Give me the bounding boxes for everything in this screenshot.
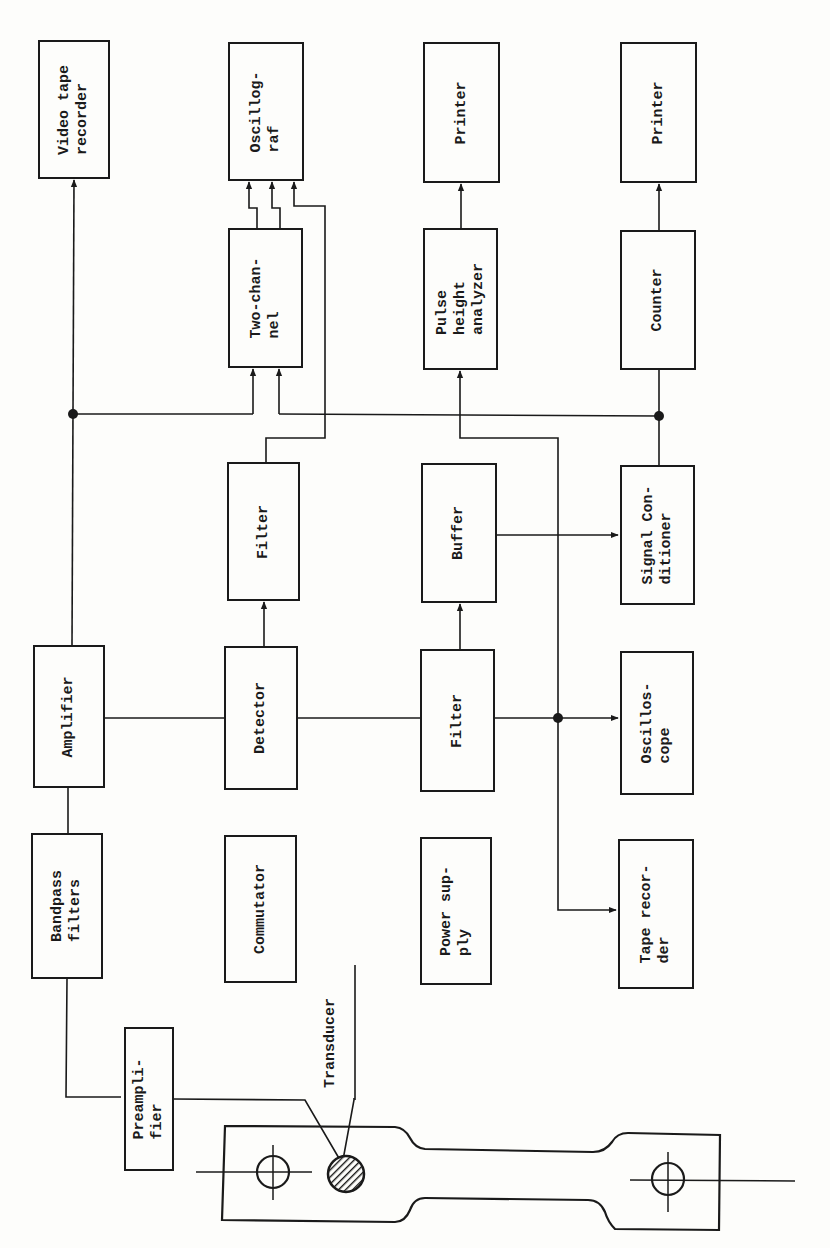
block-label: Bandpass filters [49, 870, 85, 942]
block-printer-1: Printer [423, 42, 500, 183]
block-buffer: Buffer [421, 463, 497, 603]
block-label: Oscillog- raf [248, 71, 284, 152]
block-two-channel: Two-chan- nel [228, 228, 303, 368]
block-label: Oscillos- cope [639, 682, 675, 763]
block-label: Counter [649, 268, 667, 331]
block-label: Filter [255, 504, 273, 558]
transducer-icon [328, 1156, 364, 1192]
block-tape-recorder: Tape recor- der [618, 839, 694, 989]
block-label: Printer [453, 81, 471, 144]
block-label: Pulse height analyzer [434, 263, 488, 335]
block-label: Two-chan- nel [248, 257, 284, 338]
junction-dot [553, 713, 563, 723]
block-label: Amplifier [60, 676, 78, 757]
block-detector: Detector [224, 646, 298, 790]
block-filter-1: Filter [227, 462, 300, 601]
block-printer-2: Printer [620, 42, 697, 183]
block-oscilloscope: Oscillos- cope [620, 651, 694, 795]
block-signal-conditioner: Signal Con- ditioner [620, 465, 695, 605]
block-counter: Counter [620, 230, 696, 370]
block-preamplifier: Preampli- fier [124, 1027, 174, 1171]
block-video-tape-recorder: Video tape recorder [38, 40, 110, 179]
transducer-label: Transducer [322, 998, 340, 1088]
block-power-supply: Power sup- ply [420, 837, 492, 985]
block-amplifier: Amplifier [33, 645, 105, 788]
block-oscillograf: Oscillog- raf [228, 42, 304, 181]
block-label: Printer [650, 81, 668, 144]
specimen [222, 1126, 720, 1230]
junction-dot [68, 409, 78, 419]
junction-dot [654, 411, 664, 421]
block-label: Commutator [252, 864, 270, 954]
block-label: Detector [252, 682, 270, 754]
block-pulse-height-analyzer: Pulse height analyzer [423, 228, 498, 370]
block-label: Buffer [450, 506, 468, 560]
block-label: Filter [449, 693, 467, 747]
block-label: Tape recor- der [638, 864, 674, 963]
block-bandpass-filters: Bandpass filters [31, 833, 103, 979]
block-label: Power sup- ply [438, 866, 474, 956]
block-label: Signal Con- ditioner [640, 485, 676, 584]
block-filter-2: Filter [420, 649, 495, 792]
block-label: Video tape recorder [56, 64, 92, 154]
block-label: Preampli- fier [131, 1058, 167, 1139]
block-commutator: Commutator [224, 835, 297, 983]
